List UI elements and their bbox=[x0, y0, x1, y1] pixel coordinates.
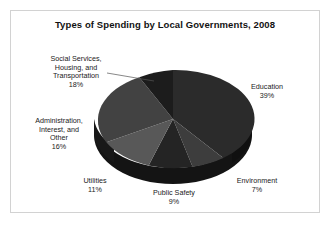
pie-label-education: Education 39% bbox=[229, 75, 305, 109]
pie-label-environment: Environment 7% bbox=[219, 169, 295, 203]
pie-label-education-pct: 39% bbox=[229, 92, 305, 100]
pie-label-public-safety-pct: 9% bbox=[137, 198, 211, 206]
pie-label-social-services-pct: 18% bbox=[29, 81, 123, 89]
pie-label-administration-pct: 16% bbox=[13, 143, 105, 151]
pie-label-administration: Administration, Interest, and Other 16% bbox=[13, 109, 105, 159]
pie-label-utilities: Utilities 11% bbox=[67, 169, 123, 203]
pie-label-social-services-name: Social Services, Housing, and Transporta… bbox=[50, 54, 101, 80]
pie-label-public-safety: Public Safety 9% bbox=[137, 181, 211, 215]
pie-label-environment-pct: 7% bbox=[219, 186, 295, 194]
chart-frame: Types of Spending by Local Governments, … bbox=[10, 10, 320, 213]
pie-chart: Social Services, Housing, and Transporta… bbox=[11, 11, 321, 214]
pie-label-administration-name: Administration, Interest, and Other bbox=[35, 116, 83, 142]
pie-label-utilities-pct: 11% bbox=[67, 186, 123, 194]
pie-label-social-services: Social Services, Housing, and Transporta… bbox=[29, 47, 123, 97]
